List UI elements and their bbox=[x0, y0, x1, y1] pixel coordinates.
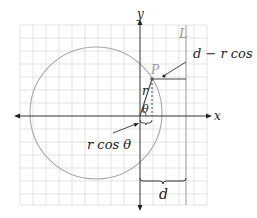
y-axis-down-arrow-icon bbox=[138, 205, 143, 211]
point-P-label: P bbox=[150, 63, 160, 77]
x-axis-label: x bbox=[214, 109, 221, 123]
x-axis-left-arrow-icon bbox=[14, 114, 20, 119]
line-L-label: L bbox=[178, 26, 188, 41]
x-axis-right-arrow-icon bbox=[206, 114, 212, 119]
d-minus-rcos-pointer-head-icon bbox=[162, 74, 165, 77]
grid bbox=[20, 25, 207, 205]
angle-label: θ bbox=[142, 103, 149, 116]
d-brace-label: d bbox=[159, 186, 168, 202]
polar-diagram: L x y P r θ d − r cos θ r cos θ d bbox=[0, 0, 257, 218]
x-axis: x bbox=[14, 109, 221, 123]
rcos-brace bbox=[140, 120, 152, 125]
rcos-pointer-head-icon bbox=[134, 123, 140, 127]
rcos-pointer bbox=[113, 124, 136, 133]
y-axis-label: y bbox=[136, 7, 144, 21]
d-minus-rcos-label: d − r cos θ bbox=[193, 46, 257, 61]
rcos-label: r cos θ bbox=[87, 137, 131, 152]
